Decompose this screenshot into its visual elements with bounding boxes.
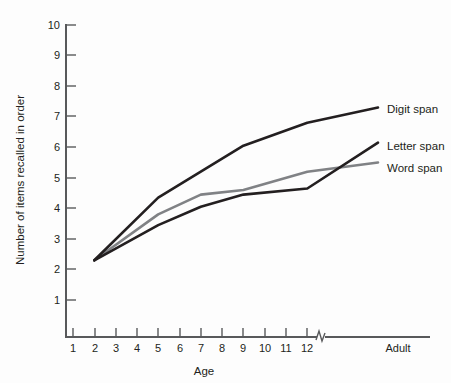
y-axis-title: Number of items recalled in order xyxy=(14,95,26,265)
y-tick-label: 3 xyxy=(54,233,60,245)
series-line-word-span xyxy=(94,163,378,261)
x-tick-label: 10 xyxy=(259,342,271,354)
y-tick-label: 5 xyxy=(54,172,60,184)
x-tick-label: 11 xyxy=(280,342,291,354)
x-axis-title: Age xyxy=(194,365,214,377)
x-tick-label: 9 xyxy=(240,342,246,354)
y-tick-group xyxy=(66,25,76,300)
y-tick-label: 6 xyxy=(54,141,60,153)
series-label-word-span: Word span xyxy=(387,162,442,174)
x-tick-label: 5 xyxy=(155,342,161,354)
y-tick-labels: 10 9 8 7 6 5 4 3 2 1 xyxy=(48,19,60,306)
line-chart: 10 9 8 7 6 5 4 3 2 1 1 xyxy=(0,0,451,383)
x-tick-label: 7 xyxy=(198,342,204,354)
x-tick-label: 6 xyxy=(177,342,183,354)
y-tick-label: 9 xyxy=(54,49,60,61)
x-tick-group xyxy=(73,328,307,337)
y-tick-label: 1 xyxy=(54,294,60,306)
x-tick-label: 3 xyxy=(113,342,119,354)
y-tick-label: 8 xyxy=(54,80,60,92)
x-tick-label: 12 xyxy=(301,342,313,354)
series-label-letter-span: Letter span xyxy=(387,140,445,152)
y-tick-label: 2 xyxy=(54,263,60,275)
series-line-letter-span xyxy=(94,143,378,261)
y-tick-label: 10 xyxy=(48,19,60,31)
series-label-digit-span: Digit span xyxy=(387,103,438,115)
x-tick-label: 8 xyxy=(219,342,225,354)
y-tick-label: 4 xyxy=(54,202,60,214)
chart-figure: 10 9 8 7 6 5 4 3 2 1 1 xyxy=(0,0,451,383)
x-tick-label: 2 xyxy=(92,342,98,354)
x-tick-labels: 1 2 3 4 5 6 7 8 9 10 11 12 Adult xyxy=(70,342,411,354)
x-tick-label: 1 xyxy=(70,342,76,354)
x-tick-label-adult: Adult xyxy=(385,342,410,354)
y-tick-label: 7 xyxy=(54,110,60,122)
x-tick-label: 4 xyxy=(134,342,140,354)
x-axis-break-icon xyxy=(316,331,325,341)
